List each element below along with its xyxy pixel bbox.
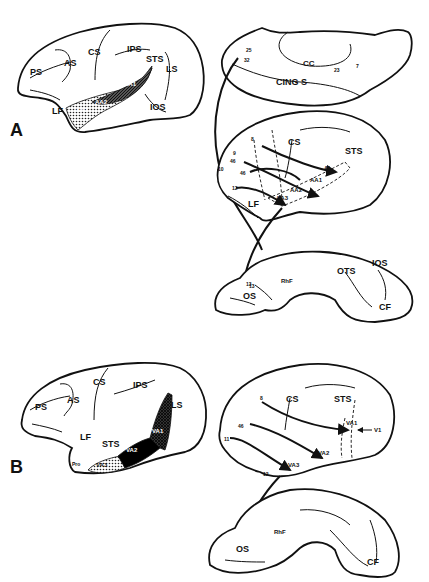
- ventral-brain-b: OS RhF CF: [209, 489, 399, 577]
- area-label: AA1: [310, 177, 323, 183]
- lateral-brain-b: PS AS CS IPS LS LF STS VA1 VA2 VA3 Pro: [22, 363, 207, 473]
- sulcus-label: CING S: [276, 77, 307, 87]
- sulcus-label: CS: [286, 394, 299, 404]
- sulcus-label: PS: [35, 402, 47, 412]
- sulcus-label: STS: [345, 146, 363, 156]
- sulcus-label: STS: [146, 54, 164, 64]
- sulcus-label: LF: [248, 199, 259, 209]
- sulcus-label: CF: [367, 557, 379, 567]
- area-label: AA2: [290, 187, 303, 193]
- panel-a-label: A: [10, 120, 23, 140]
- area-number: 23: [334, 67, 340, 73]
- panel-a: A PS AS CS IPS STS LS LF IOS AA1 AA2 AA3: [10, 24, 412, 322]
- sulcus-label: OS: [243, 291, 256, 301]
- area-label: AA1: [124, 81, 137, 87]
- sulcus-label: RhF: [274, 529, 286, 535]
- sulcus-label: CS: [88, 47, 101, 57]
- area-label: VA3: [96, 462, 108, 468]
- sulcus-label: IPS: [127, 44, 142, 54]
- panel-b: B PS AS CS IPS LS LF STS VA1 VA2 VA3 Pro: [10, 363, 399, 577]
- area-label: AA2: [95, 99, 108, 105]
- structure-label: CC: [303, 59, 315, 68]
- sulcus-label: LS: [166, 64, 178, 74]
- sulcus-label: CS: [288, 137, 301, 147]
- area-number: 9: [233, 150, 236, 156]
- area-number: 10: [218, 166, 224, 172]
- sulcus-label: IOS: [150, 102, 166, 112]
- sulcus-label: RhF: [281, 278, 293, 284]
- area-label: AA3: [76, 107, 89, 113]
- sulcus-label: AS: [67, 395, 80, 405]
- area-number: 25: [246, 47, 252, 53]
- panel-b-label: B: [10, 457, 23, 477]
- ventral-brain-a: 13 13 OS RhF OTS IOS CF: [215, 252, 412, 322]
- area-label: AA3: [276, 195, 289, 201]
- area-label: VA2: [318, 450, 330, 456]
- sulcus-label: IPS: [133, 380, 148, 390]
- area-number: 11: [224, 436, 230, 442]
- area-label: VA2: [126, 447, 138, 453]
- projection-brain-a: 8 9 46 10 46 12 CS STS AI AA1 AA2 AA3 LF: [217, 111, 390, 275]
- area-label: VA3: [288, 462, 300, 468]
- area-number: 13: [246, 281, 252, 287]
- lateral-brain-a: PS AS CS IPS STS LS LF IOS AA1 AA2 AA3: [18, 24, 204, 132]
- area-number: 32: [244, 57, 250, 63]
- area-label: VA1: [346, 420, 358, 426]
- sulcus-label: LS: [171, 400, 183, 410]
- area-number: 7: [356, 63, 359, 69]
- area-label: VA1: [152, 428, 164, 434]
- brain-connectivity-diagram: A PS AS CS IPS STS LS LF IOS AA1 AA2 AA3: [0, 0, 429, 582]
- area-number: 46: [238, 423, 244, 429]
- sulcus-label: AS: [64, 58, 77, 68]
- area-label: Pro: [72, 461, 80, 467]
- area-label: AI: [324, 165, 330, 171]
- sulcus-label: STS: [334, 394, 352, 404]
- area-number: 8: [260, 395, 263, 401]
- sulcus-label: OS: [236, 544, 249, 554]
- area-label: V1: [374, 427, 382, 433]
- sulcus-label: OTS: [337, 266, 356, 276]
- area-number: 8: [251, 136, 254, 142]
- sulcus-label: LF: [80, 432, 91, 442]
- sulcus-label: STS: [102, 439, 120, 449]
- area-number: 46: [240, 170, 246, 176]
- sulcus-label: IOS: [372, 258, 388, 268]
- area-number: 12: [263, 471, 269, 477]
- sulcus-label: LF: [52, 106, 63, 116]
- area-number: 46: [230, 158, 236, 164]
- sulcus-label: CS: [93, 377, 106, 387]
- area-number: 12: [232, 185, 238, 191]
- sulcus-label: PS: [30, 67, 42, 77]
- sulcus-label: CF: [379, 302, 391, 312]
